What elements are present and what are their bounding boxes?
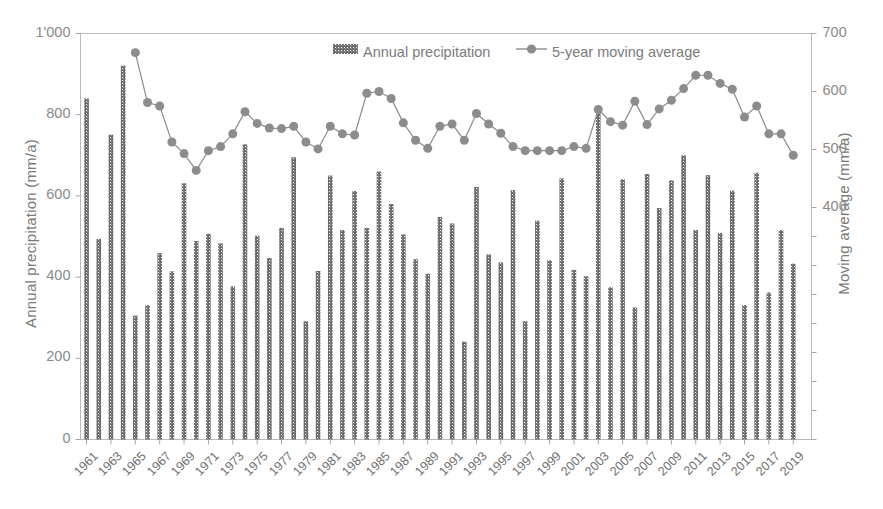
bar <box>304 321 309 439</box>
bar <box>499 262 504 439</box>
bar <box>96 239 101 440</box>
bar <box>742 305 747 439</box>
axis-ticks <box>76 34 817 445</box>
data-point-marker <box>228 129 237 138</box>
data-point-marker <box>752 102 761 111</box>
data-point-marker <box>374 87 383 96</box>
data-point-marker <box>216 142 225 151</box>
data-point-marker <box>716 79 725 88</box>
data-point-marker <box>484 119 493 128</box>
y-axis-left-tick-label: 800 <box>3 105 71 121</box>
bar <box>279 228 284 440</box>
data-point-marker <box>606 117 615 126</box>
bar <box>584 276 589 439</box>
bar <box>633 308 638 440</box>
data-point-marker <box>180 149 189 158</box>
bars-group <box>84 66 795 440</box>
data-point-marker <box>764 129 773 138</box>
data-point-marker <box>509 142 518 151</box>
bar <box>706 175 711 439</box>
bar <box>365 228 370 440</box>
bar <box>182 183 187 439</box>
bar <box>206 234 211 440</box>
bar <box>194 241 199 440</box>
bar <box>657 208 662 439</box>
data-point-marker <box>131 48 140 57</box>
data-point-marker <box>265 124 274 133</box>
bar <box>754 173 759 440</box>
bar <box>511 190 516 439</box>
bar <box>170 271 175 439</box>
bar <box>243 144 248 439</box>
data-point-marker <box>533 146 542 155</box>
bar <box>693 230 698 440</box>
legend-marker-moving-average <box>516 44 547 53</box>
bar <box>255 236 260 440</box>
data-point-marker <box>192 166 201 175</box>
precipitation-chart: Annual precipitation (mm/a) Moving avera… <box>0 0 883 509</box>
y-axis-left-tick-label: 400 <box>3 267 71 283</box>
bar <box>328 176 333 440</box>
plot-frame <box>81 34 812 440</box>
data-point-marker <box>314 144 323 153</box>
data-point-marker <box>448 119 457 128</box>
bar <box>779 230 784 440</box>
data-point-marker <box>326 122 335 131</box>
bar <box>377 172 382 440</box>
bar <box>230 286 235 439</box>
data-point-marker <box>691 71 700 80</box>
bar <box>486 254 491 439</box>
bar <box>291 157 296 439</box>
data-point-marker <box>277 124 286 133</box>
data-point-marker <box>472 109 481 118</box>
bar <box>316 271 321 439</box>
bar <box>596 109 601 439</box>
bar <box>559 178 564 439</box>
legend-swatch-annual-precipitation <box>333 44 358 54</box>
bar <box>401 234 406 439</box>
data-point-marker <box>594 105 603 114</box>
moving-average-path <box>135 53 793 171</box>
bar <box>218 243 223 439</box>
data-point-marker <box>240 107 249 116</box>
bar <box>413 259 418 439</box>
bar <box>523 321 528 439</box>
y-axis-left-tick-label: 0 <box>3 430 71 446</box>
data-point-marker <box>362 89 371 98</box>
bar <box>389 204 394 439</box>
data-point-marker <box>582 144 591 153</box>
data-point-marker <box>728 85 737 94</box>
data-point-marker <box>301 137 310 146</box>
data-point-marker <box>703 71 712 80</box>
data-point-marker <box>521 146 530 155</box>
data-point-marker <box>655 104 664 113</box>
bar <box>608 287 613 439</box>
data-point-marker <box>496 129 505 138</box>
bar <box>425 274 430 440</box>
bar <box>450 224 455 440</box>
bar <box>718 233 723 440</box>
y-axis-left-tick-label: 600 <box>3 186 71 202</box>
data-point-marker <box>387 94 396 103</box>
bar <box>462 342 467 440</box>
moving-average-line <box>131 48 798 175</box>
bar <box>133 316 138 440</box>
bar <box>572 270 577 440</box>
data-point-marker <box>460 136 469 145</box>
data-point-marker <box>667 96 676 105</box>
y-axis-right-tick-label: 600 <box>823 82 867 98</box>
data-point-marker <box>155 102 164 111</box>
bar <box>474 187 479 440</box>
bar <box>620 179 625 439</box>
data-point-marker <box>167 137 176 146</box>
bar <box>669 180 674 439</box>
bar <box>791 264 796 440</box>
data-point-marker <box>630 97 639 106</box>
data-point-marker <box>253 119 262 128</box>
bar <box>767 293 772 440</box>
data-point-marker <box>740 113 749 122</box>
y-axis-right-tick-label: 400 <box>823 198 867 214</box>
data-point-marker <box>338 129 347 138</box>
y-axis-left-tick-label: 200 <box>3 348 71 364</box>
data-point-marker <box>679 84 688 93</box>
